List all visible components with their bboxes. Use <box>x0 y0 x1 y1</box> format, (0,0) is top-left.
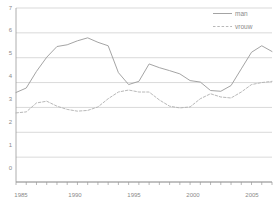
series-line-vrouw <box>16 81 272 113</box>
line-chart: 7 6 5 4 3 2 1 0 1985 1990 1995 2000 2005… <box>0 0 274 205</box>
gridlines <box>16 8 272 182</box>
x-axis-ticks <box>16 182 272 185</box>
series-line-man <box>16 38 272 93</box>
plot-area <box>0 0 274 205</box>
